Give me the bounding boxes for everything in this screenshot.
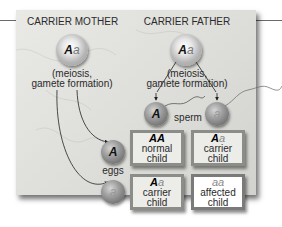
sperm-a: a	[205, 102, 229, 126]
sperm-label: sperm	[170, 113, 206, 123]
punnett-cell-Aa-top: Aa carrier child	[191, 130, 245, 166]
sperm-A: A	[144, 102, 168, 126]
punnett-cell-AA: AA normal child	[130, 130, 184, 166]
eggs-label: eggs	[98, 166, 128, 176]
punnett-genotype: AA	[149, 133, 165, 144]
egg-a: a	[101, 180, 125, 204]
punnett-genotype: aa	[212, 177, 224, 188]
punnett-genotype: Aa	[150, 177, 164, 188]
punnett-genotype: Aa	[211, 133, 225, 144]
egg-A: A	[101, 140, 125, 164]
punnett-cell-Aa-bottom: Aa carrier child	[130, 174, 184, 210]
punnett-cell-aa: aa affected child	[191, 174, 245, 210]
